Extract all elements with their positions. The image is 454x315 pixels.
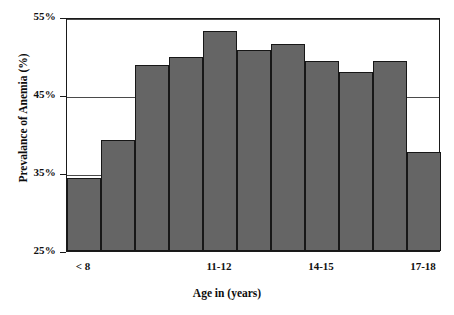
y-tick-label-35: 35% — [33, 166, 56, 178]
bar — [135, 65, 169, 251]
bar — [237, 50, 271, 251]
anemia-prevalence-bar-chart: Prevalance of Anemia (%) 25%35%45%55% < … — [0, 0, 454, 315]
x-tick-label-1: 11-12 — [206, 260, 231, 272]
x-axis-title: Age in (years) — [0, 287, 454, 299]
y-axis-title: Prevalance of Anemia (%) — [17, 3, 29, 233]
bar — [67, 178, 101, 251]
x-tick-label-3: 17-18 — [410, 260, 436, 272]
bar — [203, 31, 237, 251]
bar — [101, 140, 135, 251]
plot-area — [66, 18, 440, 252]
y-tick-label-25: 25% — [33, 244, 56, 256]
bar — [373, 61, 407, 251]
y-tick-label-45: 45% — [33, 88, 56, 100]
y-tick-label-55: 55% — [33, 10, 56, 22]
bar — [271, 44, 305, 251]
bar — [305, 61, 339, 251]
bars-layer — [67, 19, 439, 251]
x-tick-label-0: < 8 — [76, 260, 91, 272]
y-tick-mark-25 — [60, 252, 66, 253]
bar — [407, 152, 441, 251]
x-tick-label-2: 14-15 — [308, 260, 334, 272]
bar — [169, 57, 203, 251]
bar — [339, 72, 373, 251]
